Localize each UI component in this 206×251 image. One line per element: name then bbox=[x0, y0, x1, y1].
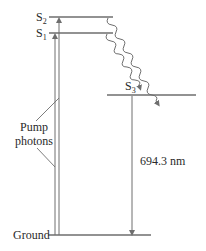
nonradiative-decay-s1-wavy-arrow bbox=[106, 34, 140, 88]
pump-leader-lower bbox=[37, 148, 55, 167]
pump-leader-upper bbox=[36, 98, 59, 121]
ground-label: Ground bbox=[13, 228, 50, 242]
level-s2-label: S2 bbox=[36, 10, 47, 26]
pump-label-line1: Pump bbox=[20, 120, 48, 134]
level-s1-label: S1 bbox=[36, 26, 47, 42]
level-s3-label: S3 bbox=[125, 79, 136, 95]
pump-label-line2: photons bbox=[15, 134, 53, 148]
energy-level-diagram: S2 S1 S3 Ground Pump photons 694.3 nm bbox=[0, 0, 206, 251]
emission-wavelength-label: 694.3 nm bbox=[140, 154, 186, 168]
